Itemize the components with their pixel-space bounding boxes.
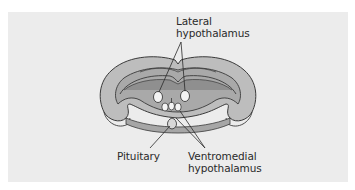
ventromedial-nucleus-left — [162, 103, 168, 111]
label-line: hypothalamus — [176, 27, 250, 39]
label-line: Ventromedial — [188, 150, 262, 162]
ventromedial-nucleus-mid — [169, 102, 175, 110]
label-pituitary: Pituitary — [117, 150, 160, 162]
brain-section — [100, 57, 256, 133]
label-ventromedial-hypothalamus: Ventromedial hypothalamus — [188, 150, 262, 174]
lateral-nucleus-left — [154, 92, 163, 103]
lateral-nucleus-right — [181, 91, 190, 102]
label-lateral-hypothalamus: Lateral hypothalamus — [176, 15, 250, 39]
label-line: Pituitary — [117, 150, 160, 162]
label-line: hypothalamus — [188, 162, 262, 174]
ventromedial-nucleus-right — [175, 103, 181, 111]
label-line: Lateral — [176, 15, 250, 27]
